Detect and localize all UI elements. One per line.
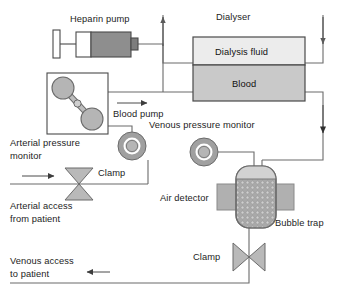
venous-pressure-monitor-label: Venous pressure monitor — [149, 120, 255, 130]
arterial-monitor-inner — [126, 140, 137, 151]
blood-pump[interactable] — [47, 73, 108, 134]
blood-pump-roller-bottom — [81, 108, 103, 130]
dialysis-fluid-inflow-line — [305, 15, 323, 63]
venous-clamp-label: Clamp — [193, 252, 220, 262]
blood-label: Blood — [232, 79, 256, 89]
bubble-trap-label: Bubble trap — [275, 218, 324, 228]
arterial-pressure-monitor-label-line1: Arterial pressure — [10, 138, 80, 148]
venous-clamp-left-triangle — [233, 243, 249, 271]
syringe-nozzle — [131, 38, 138, 50]
heparin-pump[interactable] — [53, 30, 138, 58]
heparin-line — [137, 44, 163, 92]
air-detector-label: Air detector — [160, 193, 209, 203]
syringe-barrel-empty — [76, 32, 91, 57]
blood-pump-label: Blood pump — [113, 109, 164, 119]
arterial-monitor-to-pump-line — [108, 126, 132, 132]
venous-monitor-line — [218, 152, 254, 166]
venous-access-label-line2: to patient — [10, 269, 50, 279]
bubble-trap[interactable] — [236, 166, 276, 228]
syringe-plunger-flange — [53, 30, 60, 58]
arterial-access-label-line1: Arterial access — [10, 201, 73, 211]
blood-pump-roller-top — [52, 77, 74, 99]
dialyser-blood-outlet-line — [262, 92, 323, 160]
diagram-canvas: Heparin pump Blood pump Dialyser Dialysi… — [0, 0, 339, 302]
arterial-clamp-upper-triangle — [65, 168, 93, 184]
venous-pressure-monitor[interactable] — [190, 138, 218, 166]
arterial-access-label-line2: from patient — [10, 214, 61, 224]
dialysis-fluid-label: Dialysis fluid — [215, 47, 268, 57]
heparin-pump-label: Heparin pump — [70, 14, 130, 24]
arterial-pressure-monitor[interactable] — [118, 132, 146, 160]
arterial-pressure-monitor-label-line2: monitor — [10, 151, 42, 161]
dialysis-fluid-outflow-line — [163, 15, 193, 63]
dialyser-label: Dialyser — [216, 12, 250, 22]
arterial-clamp-lower-triangle — [65, 184, 93, 200]
blood-pump-hub — [74, 100, 81, 107]
venous-monitor-inner — [198, 146, 209, 157]
haemodialysis-circuit-diagram: Heparin pump Blood pump Dialyser Dialysi… — [0, 0, 339, 302]
venous-access-label-line1: Venous access — [10, 256, 74, 266]
syringe-barrel-filled — [91, 32, 131, 57]
venous-clamp-right-triangle — [249, 243, 265, 271]
arterial-clamp-label: Clamp — [98, 168, 125, 178]
